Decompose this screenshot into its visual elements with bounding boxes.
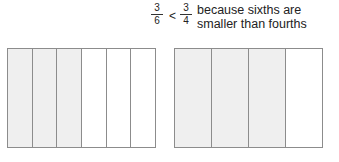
fourths-model bbox=[174, 48, 323, 148]
fraction-three-sixths: 3 6 bbox=[151, 3, 163, 26]
shaded-part bbox=[212, 49, 249, 147]
unshaded-part bbox=[107, 49, 132, 147]
shaded-part bbox=[33, 49, 58, 147]
explanation-text: because sixths are smaller than fourths bbox=[197, 3, 337, 31]
fraction-three-fourths: 3 4 bbox=[180, 3, 192, 26]
shaded-part bbox=[175, 49, 212, 147]
shaded-part bbox=[249, 49, 286, 147]
numerator: 3 bbox=[151, 3, 163, 15]
unshaded-part bbox=[131, 49, 155, 147]
denominator: 6 bbox=[151, 15, 163, 26]
denominator: 4 bbox=[180, 15, 192, 26]
shaded-part bbox=[57, 49, 82, 147]
numerator: 3 bbox=[180, 3, 192, 15]
unshaded-part bbox=[82, 49, 107, 147]
unshaded-part bbox=[286, 49, 322, 147]
sixths-model bbox=[7, 48, 156, 148]
shaded-part bbox=[8, 49, 33, 147]
less-than-sign: < bbox=[169, 9, 176, 23]
